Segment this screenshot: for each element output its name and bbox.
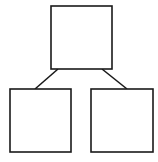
connector-lines [35,69,127,89]
connector-root-to-left-child [35,69,58,89]
diagram-svg [0,0,158,162]
node-right-child [91,89,153,152]
node-left-child [10,89,71,152]
node-boxes [10,6,153,152]
node-root [51,6,112,69]
connector-root-to-right-child [102,69,127,89]
tree-diagram [0,0,158,162]
